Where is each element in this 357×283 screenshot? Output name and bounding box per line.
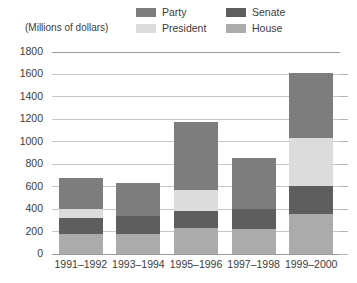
y-tick-mark-400 — [340, 209, 348, 210]
y-tick-mark-0 — [340, 254, 348, 255]
bar-segment-senate-1999–2000[interactable] — [289, 186, 333, 213]
x-axis-label-1999–2000: 1999–2000 — [272, 258, 350, 270]
y-tick-mark-1600 — [340, 74, 348, 75]
bar-segment-party-1993–1994[interactable] — [116, 183, 160, 216]
y-axis-label-800: 800 — [25, 158, 43, 169]
legend-swatch-president — [136, 24, 156, 33]
bar-segment-senate-1995–1996[interactable] — [174, 211, 218, 228]
legend-item-party: Party — [136, 4, 220, 20]
legend-label-party: Party — [162, 7, 187, 18]
y-tick-mark-800 — [340, 164, 348, 165]
bar-segment-house-1991–1992[interactable] — [59, 234, 103, 254]
y-axis-label-1400: 1400 — [20, 91, 43, 102]
bar-segment-party-1997–1998[interactable] — [232, 158, 276, 209]
y-axis-label-200: 200 — [25, 226, 43, 237]
bar-segment-senate-1993–1994[interactable] — [116, 216, 160, 234]
legend-item-president: President — [136, 20, 220, 36]
bar-segment-house-1997–1998[interactable] — [232, 229, 276, 254]
stacked-bar-chart: Party Senate President House (Millions o… — [0, 0, 357, 283]
bar-1993–1994[interactable] — [116, 52, 160, 254]
y-axis-label-400: 400 — [25, 203, 43, 214]
bar-segment-house-1993–1994[interactable] — [116, 234, 160, 254]
bar-segment-house-1999–2000[interactable] — [289, 214, 333, 254]
y-axis-label-600: 600 — [25, 181, 43, 192]
bar-segment-party-1991–1992[interactable] — [59, 178, 103, 209]
y-axis-caption: (Millions of dollars) — [25, 22, 108, 33]
bar-segment-party-1999–2000[interactable] — [289, 73, 333, 138]
y-tick-mark-200 — [340, 231, 348, 232]
bar-segment-senate-1991–1992[interactable] — [59, 218, 103, 234]
legend-item-house: House — [226, 20, 310, 36]
bar-1991–1992[interactable] — [59, 52, 103, 254]
bar-segment-president-1991–1992[interactable] — [59, 209, 103, 218]
bar-segment-senate-1997–1998[interactable] — [232, 209, 276, 229]
chart-legend: Party Senate President House — [136, 4, 351, 36]
bar-1997–1998[interactable] — [232, 52, 276, 254]
plot-area-wrapper: 0200400600800100012001400160018001991–19… — [0, 44, 357, 259]
y-tick-mark-1400 — [340, 96, 348, 97]
y-axis-label-1800: 1800 — [20, 46, 43, 57]
legend-swatch-house — [226, 24, 246, 33]
legend-swatch-party — [136, 8, 156, 17]
legend-label-president: President — [162, 23, 206, 34]
y-tick-mark-600 — [340, 186, 348, 187]
plot-area: 0200400600800100012001400160018001991–19… — [52, 52, 340, 254]
legend-item-senate: Senate — [226, 4, 310, 20]
legend-label-senate: Senate — [252, 7, 285, 18]
y-axis-label-1000: 1000 — [20, 136, 43, 147]
bar-segment-party-1995–1996[interactable] — [174, 122, 218, 190]
bar-segment-president-1995–1996[interactable] — [174, 190, 218, 211]
legend-label-house: House — [252, 23, 282, 34]
bar-1995–1996[interactable] — [174, 52, 218, 254]
y-axis-label-1200: 1200 — [20, 113, 43, 124]
bar-segment-president-1999–2000[interactable] — [289, 138, 333, 186]
bar-segment-house-1995–1996[interactable] — [174, 228, 218, 254]
y-tick-mark-1200 — [340, 119, 348, 120]
y-tick-mark-1000 — [340, 141, 348, 142]
legend-swatch-senate — [226, 8, 246, 17]
bar-1999–2000[interactable] — [289, 52, 333, 254]
y-axis-label-1600: 1600 — [20, 68, 43, 79]
